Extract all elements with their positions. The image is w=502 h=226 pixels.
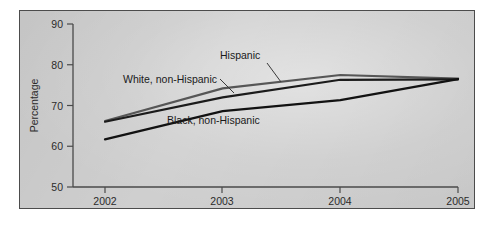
annotations-group: White, non-Hispanic Hispanic Black, non-… xyxy=(123,49,281,126)
series-annotation-black-non-hispanic: Black, non-Hispanic xyxy=(167,114,260,126)
y-tick-label-90: 90 xyxy=(51,18,63,30)
y-axis: 90 80 70 60 50 Percentage xyxy=(28,18,73,193)
series-annotation-hispanic: Hispanic xyxy=(220,49,260,61)
chart-panel: 90 80 70 60 50 Percentage 2002 2003 2004… xyxy=(19,10,475,209)
x-axis: 2002 2003 2004 2005 xyxy=(73,187,470,207)
x-tick-label-2003: 2003 xyxy=(210,195,234,207)
series-line-white-non-hispanic xyxy=(105,79,458,121)
x-tick-label-2002: 2002 xyxy=(93,195,117,207)
y-tick-label-70: 70 xyxy=(51,100,63,112)
x-tick-label-2004: 2004 xyxy=(328,195,352,207)
leader-line-hispanic xyxy=(267,63,281,82)
y-tick-label-80: 80 xyxy=(51,59,63,71)
y-tick-label-50: 50 xyxy=(51,181,63,193)
leader-line-white-non-hispanic xyxy=(220,79,234,93)
y-tick-label-60: 60 xyxy=(51,140,63,152)
x-tick-label-2005: 2005 xyxy=(446,195,470,207)
line-chart: 90 80 70 60 50 Percentage 2002 2003 2004… xyxy=(20,11,475,209)
y-axis-title: Percentage xyxy=(28,78,40,132)
series-annotation-white-non-hispanic: White, non-Hispanic xyxy=(123,73,217,85)
figure-root: 90 80 70 60 50 Percentage 2002 2003 2004… xyxy=(0,0,502,226)
